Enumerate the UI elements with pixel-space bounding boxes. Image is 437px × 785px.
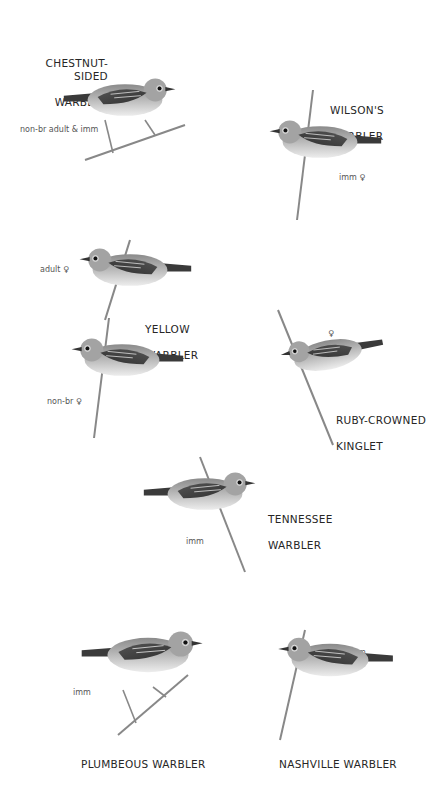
yellow-warbler-adult-illustration [55, 225, 225, 320]
ruby-crowned-kinglet-illustration [258, 305, 408, 450]
yellow-warbler-nonbr-illustration [42, 318, 212, 438]
species-name-line1: NASHVILLE WARBLER [279, 758, 397, 770]
field-guide-plate: CHESTNUT-SIDED WARBLER non-br adult & im… [0, 0, 437, 785]
species-label-nashville: NASHVILLE WARBLER [279, 745, 397, 771]
wilsons-warbler-illustration [240, 90, 410, 230]
plumbeous-warbler-illustration [28, 615, 218, 740]
species-name-line1: PLUMBEOUS WARBLER [81, 758, 206, 770]
tennessee-warbler-illustration [115, 452, 285, 577]
nashville-warbler-illustration [255, 615, 420, 740]
chestnut-sided-warbler-illustration [25, 55, 200, 165]
species-label-plumbeous: PLUMBEOUS WARBLER [81, 745, 206, 771]
